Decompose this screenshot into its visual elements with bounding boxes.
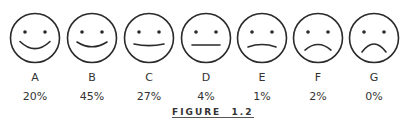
face-percentage: 4% [186,90,226,103]
face-label: A [15,71,55,84]
face-frown-icon [294,14,343,63]
face-label: E [242,71,282,84]
face-big-frown-icon [350,14,399,63]
face-neutral-icon [182,14,231,63]
face-big-smile-icon [11,14,60,63]
face-label: G [354,71,394,84]
faces-row [0,0,409,70]
face-percentage: 27% [129,90,169,103]
face-percentage: 1% [242,90,282,103]
face-label: B [72,71,112,84]
face-percentage: 45% [72,90,112,103]
figure-caption: FIGURE 1.2 [172,107,254,117]
face-slight-frown-icon [238,14,287,63]
face-smile-icon [68,14,117,63]
face-label: F [298,71,338,84]
face-label: C [129,71,169,84]
face-label: D [186,71,226,84]
figure-number: 1.2 [232,107,254,117]
figure-word: FIGURE [172,107,221,117]
face-percentage: 0% [354,90,394,103]
face-slight-smile-icon [125,14,174,63]
face-percentage: 2% [298,90,338,103]
face-percentage: 20% [15,90,55,103]
